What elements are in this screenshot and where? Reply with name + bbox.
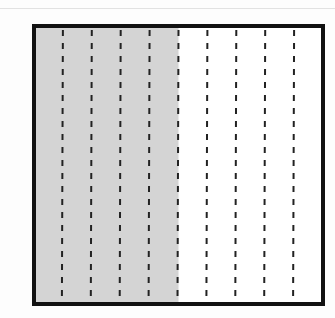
- fraction-square-diagram: [0, 0, 335, 318]
